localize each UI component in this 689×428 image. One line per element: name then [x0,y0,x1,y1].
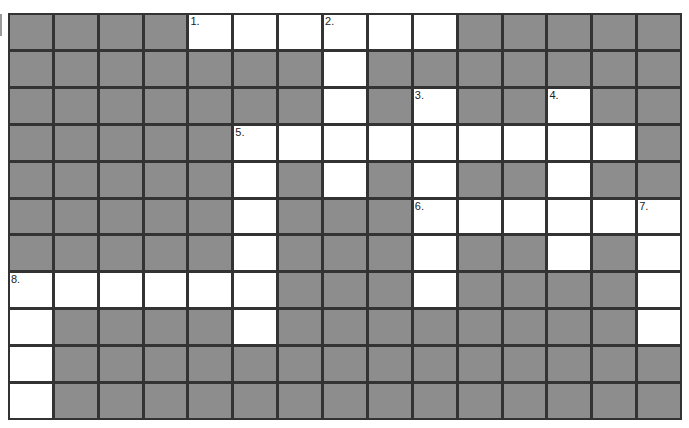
crossword-cell-open[interactable] [234,236,276,270]
crossword-cell-blocked [279,200,321,234]
crossword-cell-open[interactable] [10,384,52,418]
crossword-cell-blocked [189,200,231,234]
crossword-cell-open[interactable]: 3. [414,89,456,123]
crossword-cell-blocked [55,384,97,418]
crossword-cell-open[interactable] [324,163,366,197]
crossword-cell-blocked [324,236,366,270]
crossword-cell-open[interactable] [414,126,456,160]
crossword-cell-blocked [548,273,590,307]
crossword-cell-blocked [55,89,97,123]
crossword-cell-blocked [459,310,501,344]
crossword-cell-open[interactable] [234,15,276,49]
crossword-cell-open[interactable] [504,200,546,234]
crossword-cell-open[interactable] [414,236,456,270]
crossword-cell-open[interactable] [55,273,97,307]
crossword-cell-open[interactable] [279,15,321,49]
crossword-cell-blocked [145,236,187,270]
crossword-cell-blocked [234,347,276,381]
crossword-cell-open[interactable] [324,52,366,86]
clue-number: 6. [415,200,424,212]
crossword-cell-open[interactable]: 5. [234,126,276,160]
crossword-cell-open[interactable]: 2. [324,15,366,49]
clue-number: 4. [549,89,558,101]
crossword-cell-blocked [593,89,635,123]
crossword-cell-blocked [279,310,321,344]
crossword-cell-open[interactable] [548,200,590,234]
crossword-cell-open[interactable] [593,126,635,160]
crossword-cell-open[interactable] [279,126,321,160]
crossword-cell-open[interactable] [369,15,411,49]
crossword-cell-blocked [145,52,187,86]
crossword-cell-open[interactable] [548,163,590,197]
crossword-cell-open[interactable] [234,200,276,234]
crossword-cell-open[interactable] [504,126,546,160]
crossword-cell-open[interactable]: 4. [548,89,590,123]
crossword-cell-blocked [459,384,501,418]
crossword-cell-open[interactable] [638,273,680,307]
crossword-cell-blocked [504,15,546,49]
crossword-cell-blocked [234,384,276,418]
crossword-cell-open[interactable] [189,273,231,307]
crossword-cell-open[interactable] [638,310,680,344]
crossword-cell-blocked [145,200,187,234]
crossword-cell-blocked [369,163,411,197]
crossword-cell-blocked [459,89,501,123]
crossword-cell-open[interactable] [593,200,635,234]
crossword-cell-open[interactable] [324,126,366,160]
crossword-cell-blocked [100,200,142,234]
crossword-cell-open[interactable] [10,347,52,381]
crossword-cell-open[interactable] [145,273,187,307]
crossword-cell-open[interactable] [324,89,366,123]
crossword-cell-blocked [324,347,366,381]
crossword-cell-open[interactable] [459,126,501,160]
crossword-cell-blocked [55,310,97,344]
crossword-cell-open[interactable] [459,200,501,234]
crossword-cell-blocked [145,384,187,418]
clue-number: 1. [190,15,199,27]
crossword-cell-open[interactable] [414,163,456,197]
crossword-cell-open[interactable] [234,273,276,307]
crossword-cell-blocked [369,384,411,418]
crossword-cell-blocked [189,236,231,270]
crossword-cell-blocked [504,52,546,86]
crossword-cell-open[interactable]: 6. [414,200,456,234]
crossword-cell-open[interactable] [100,273,142,307]
crossword-cell-open[interactable] [414,273,456,307]
crossword-cell-blocked [638,89,680,123]
crossword-cell-blocked [414,310,456,344]
crossword-cell-open[interactable]: 1. [189,15,231,49]
crossword-cell-blocked [10,200,52,234]
crossword-cell-open[interactable]: 8. [10,273,52,307]
crossword-cell-open[interactable] [548,236,590,270]
crossword-cell-blocked [369,52,411,86]
clue-number: 7. [639,200,648,212]
crossword-cell-blocked [279,236,321,270]
crossword-cell-blocked [504,347,546,381]
crossword-cell-open[interactable] [548,126,590,160]
crossword-cell-blocked [279,89,321,123]
crossword-cell-blocked [234,89,276,123]
crossword-cell-blocked [369,89,411,123]
crossword-cell-blocked [593,163,635,197]
edge-mark [0,14,2,36]
crossword-cell-blocked [10,126,52,160]
crossword-cell-open[interactable]: 7. [638,200,680,234]
crossword-cell-open[interactable] [638,236,680,270]
crossword-cell-blocked [279,347,321,381]
crossword-cell-open[interactable] [10,310,52,344]
crossword-cell-blocked [55,200,97,234]
crossword-cell-open[interactable] [414,15,456,49]
crossword-cell-open[interactable] [234,310,276,344]
crossword-cell-blocked [369,236,411,270]
crossword-cell-blocked [10,163,52,197]
crossword-cell-open[interactable] [234,163,276,197]
crossword-cell-blocked [459,15,501,49]
crossword-cell-blocked [10,52,52,86]
crossword-cell-blocked [459,236,501,270]
crossword-cell-blocked [100,163,142,197]
crossword-cell-blocked [145,310,187,344]
crossword-cell-blocked [593,52,635,86]
crossword-cell-blocked [504,163,546,197]
crossword-cell-blocked [593,384,635,418]
crossword-cell-open[interactable] [369,126,411,160]
